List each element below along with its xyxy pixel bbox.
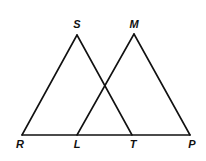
segment-mp bbox=[134, 34, 190, 135]
label-p: P bbox=[188, 138, 196, 150]
geometry-figure: S M R L T P bbox=[0, 0, 206, 161]
label-m: M bbox=[129, 18, 139, 30]
label-l: L bbox=[74, 138, 81, 150]
label-s: S bbox=[73, 18, 81, 30]
label-t: T bbox=[130, 138, 138, 150]
label-r: R bbox=[16, 138, 24, 150]
segment-rs bbox=[22, 35, 77, 135]
